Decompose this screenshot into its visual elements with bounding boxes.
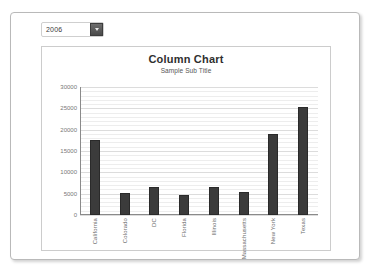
plot-area: 300002500020000150001000050000 Californi… [80,87,318,215]
x-axis-category-label: Illinois [211,218,217,235]
bar-slot: Texas [288,87,318,215]
y-axis-tick-label: 0 [74,212,77,218]
chart-title: Column Chart [42,53,330,65]
y-axis-tick-label: 5000 [64,191,77,197]
bar-slot: Colorado [110,87,140,215]
chevron-down-glyph [95,28,99,31]
chart-subtitle: Sample Sub Title [42,67,330,74]
bar[interactable] [298,107,308,215]
x-axis-category-label: DC [151,218,157,227]
y-axis-tick-label: 15000 [60,148,77,154]
bar[interactable] [209,187,219,215]
x-axis-category-label: Colorado [122,218,128,243]
bar[interactable] [179,195,189,215]
chart-container: Column Chart Sample Sub Title 3000025000… [41,46,331,251]
chevron-down-icon[interactable] [90,23,103,36]
gridline [80,215,318,216]
bar-slot: Florida [169,87,199,215]
app-root: 2006 Column Chart Sample Sub Title 30000… [0,0,378,279]
x-axis-category-label: Texas [300,218,306,234]
report-panel: 2006 Column Chart Sample Sub Title 30000… [10,12,360,260]
bar-slot: New York [259,87,289,215]
bar-series: CaliforniaColoradoDCFloridaIllinoisMassa… [80,87,318,215]
bar[interactable] [268,134,278,215]
bar[interactable] [120,193,130,215]
x-axis-category-label: Florida [181,218,187,237]
y-axis-tick-label: 25000 [60,105,77,111]
x-axis-category-label: Massachusetts [241,218,247,259]
bar[interactable] [149,187,159,215]
y-axis-tick-label: 10000 [60,169,77,175]
bar-slot: DC [140,87,170,215]
y-axis-tick-label: 20000 [60,127,77,133]
year-filter-selected-value[interactable]: 2006 [42,23,90,36]
bar[interactable] [90,140,100,215]
x-axis-category-label: New York [270,218,276,244]
y-axis-tick-label: 30000 [60,84,77,90]
bar-slot: Massachusetts [229,87,259,215]
bar-slot: California [80,87,110,215]
year-filter-dropdown[interactable]: 2006 [41,22,104,37]
bar[interactable] [239,192,249,215]
bar-slot: Illinois [199,87,229,215]
x-axis-category-label: California [92,218,98,244]
